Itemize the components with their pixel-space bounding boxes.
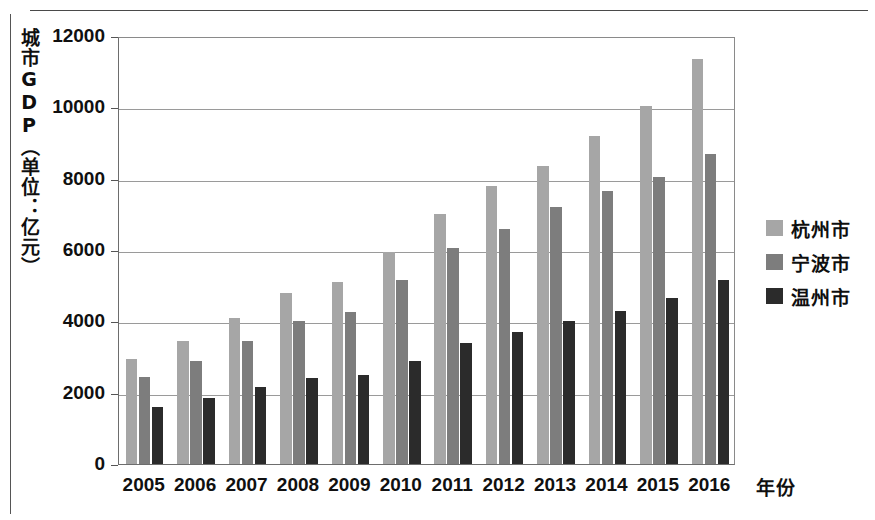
y-axis-tick-label: 6000 (0, 239, 105, 261)
y-axis-tick-label: 0 (0, 453, 105, 475)
bar-温州市-2010 (409, 361, 421, 464)
bar-杭州市-2014 (589, 136, 601, 464)
bar-温州市-2008 (306, 378, 318, 464)
bar-杭州市-2005 (126, 359, 138, 464)
y-axis-tick-mark (111, 108, 118, 109)
bar-温州市-2014 (615, 311, 627, 464)
plot-area (118, 37, 735, 465)
bar-宁波市-2005 (139, 377, 151, 464)
legend-item-温州市[interactable]: 温州市 (766, 284, 851, 308)
legend-item-label: 宁波市 (791, 249, 851, 276)
bar-温州市-2013 (563, 321, 575, 464)
bar-杭州市-2009 (332, 282, 344, 464)
bar-温州市-2005 (152, 407, 164, 464)
bar-温州市-2015 (666, 298, 678, 464)
bar-杭州市-2008 (280, 293, 292, 464)
y-axis-tick-mark (111, 394, 118, 395)
y-axis-tick-mark (111, 465, 118, 466)
bar-温州市-2009 (358, 375, 370, 464)
y-axis-tick-label: 12000 (0, 25, 105, 47)
bar-宁波市-2013 (550, 207, 562, 464)
bar-宁波市-2010 (396, 280, 408, 464)
bar-温州市-2007 (255, 387, 267, 464)
bar-杭州市-2011 (434, 214, 446, 464)
bar-layer (119, 38, 734, 464)
bar-温州市-2011 (460, 343, 472, 464)
bar-宁波市-2012 (499, 229, 511, 464)
y-axis-tick-mark (111, 180, 118, 181)
bar-温州市-2006 (203, 398, 215, 464)
bar-宁波市-2011 (447, 248, 459, 464)
y-axis-tick-mark (111, 322, 118, 323)
y-axis-tick-label: 8000 (0, 168, 105, 190)
bar-杭州市-2013 (537, 166, 549, 464)
x-axis-title: 年份 (756, 473, 796, 500)
bar-杭州市-2016 (692, 59, 704, 464)
bar-温州市-2012 (512, 332, 524, 464)
legend-item-杭州市[interactable]: 杭州市 (766, 216, 851, 240)
y-axis-tick-mark (111, 37, 118, 38)
y-axis-tick-label: 10000 (0, 96, 105, 118)
x-axis-tick-label: 2016 (678, 474, 741, 496)
y-axis-tick-label: 2000 (0, 382, 105, 404)
y-axis-tick-label: 4000 (0, 310, 105, 332)
bar-宁波市-2016 (705, 154, 717, 464)
bar-宁波市-2015 (653, 177, 665, 464)
bar-宁波市-2007 (242, 341, 254, 464)
legend-item-label: 杭州市 (791, 215, 851, 242)
bar-宁波市-2014 (602, 191, 614, 464)
bar-杭州市-2006 (177, 341, 189, 464)
legend-swatch-icon (766, 220, 783, 236)
bar-杭州市-2015 (640, 106, 652, 464)
bar-杭州市-2007 (229, 318, 241, 464)
bar-温州市-2016 (718, 280, 730, 464)
y-axis-tick-mark (111, 251, 118, 252)
bar-宁波市-2009 (345, 312, 357, 464)
legend-item-宁波市[interactable]: 宁波市 (766, 250, 851, 274)
legend-swatch-icon (766, 254, 783, 270)
bar-宁波市-2006 (190, 361, 202, 464)
bar-杭州市-2010 (383, 252, 395, 464)
legend-swatch-icon (766, 288, 783, 304)
gdp-bar-chart: 020004000600080001000012000 200520062007… (0, 0, 875, 520)
chart-legend: 杭州市宁波市温州市 (766, 216, 851, 308)
legend-item-label: 温州市 (791, 283, 851, 310)
bar-宁波市-2008 (293, 321, 305, 464)
bar-杭州市-2012 (486, 186, 498, 464)
